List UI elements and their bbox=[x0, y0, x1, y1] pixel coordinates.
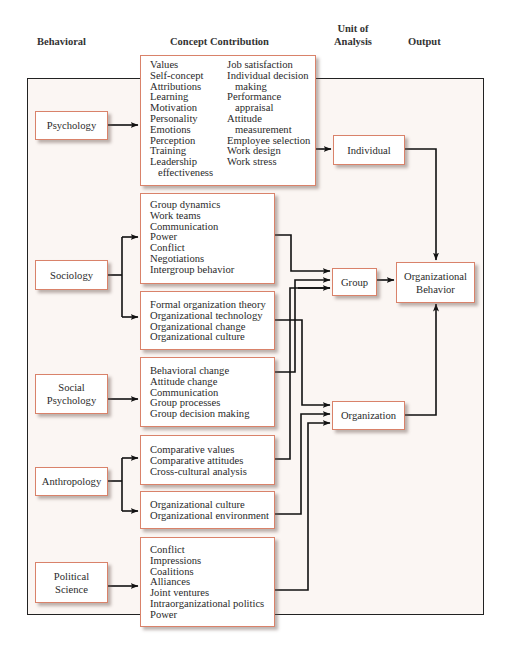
output-line1: Organizational bbox=[404, 270, 467, 283]
discipline-psychology-label: Psychology bbox=[47, 119, 96, 132]
concepts-sociology-organization: Formal organization theory Organizationa… bbox=[140, 291, 275, 350]
concepts-political-science: Conflict Impressions Coalitions Alliance… bbox=[140, 537, 275, 627]
concepts-anthropology-organization: Organizational culture Organizational en… bbox=[140, 491, 275, 529]
concepts-social-psychology: Behavioral change Attitude change Commun… bbox=[140, 357, 275, 427]
discipline-psychology: Psychology bbox=[35, 111, 108, 140]
discipline-sociology-label: Sociology bbox=[50, 269, 93, 282]
unit-individual-label: Individual bbox=[347, 144, 391, 157]
concepts-anthropology-group: Comparative values Comparative attitudes… bbox=[140, 435, 275, 485]
discipline-political-science: Political Science bbox=[35, 562, 108, 603]
concept-item: Work stress bbox=[227, 157, 310, 168]
concepts-sociology-group: Group dynamics Work teams Communication … bbox=[140, 193, 275, 284]
output-organizational-behavior: Organizational Behavior bbox=[396, 262, 475, 303]
concept-item-continuation: measurement bbox=[227, 125, 310, 136]
discipline-political-science-line2: Science bbox=[54, 583, 89, 596]
concepts-psychology-col2: Job satisfaction Individual decision mak… bbox=[213, 60, 310, 179]
concept-item: Work teams bbox=[150, 211, 274, 222]
unit-individual: Individual bbox=[333, 135, 405, 165]
concept-item: Organizational culture bbox=[150, 332, 274, 343]
concept-item: Impressions bbox=[150, 556, 274, 567]
unit-organization: Organization bbox=[332, 401, 405, 430]
discipline-social-psychology: Social Psychology bbox=[35, 374, 108, 414]
discipline-anthropology-label: Anthropology bbox=[42, 475, 101, 488]
concept-item: Group decision making bbox=[150, 409, 274, 420]
concept-item: Organizational environment bbox=[150, 511, 274, 522]
discipline-political-science-line1: Political bbox=[54, 570, 89, 583]
concept-item: Comparative attitudes bbox=[150, 456, 274, 467]
unit-organization-label: Organization bbox=[341, 409, 396, 422]
concept-item: Cross-cultural analysis bbox=[150, 467, 274, 478]
discipline-social-psychology-line1: Social bbox=[47, 381, 96, 394]
unit-group: Group bbox=[332, 268, 377, 296]
unit-group-label: Group bbox=[341, 276, 368, 289]
concept-item: Intergroup behavior bbox=[150, 265, 274, 276]
concepts-psychology: Values Self-concept Attributions Learnin… bbox=[140, 55, 316, 186]
concept-item: Individual decision bbox=[227, 71, 310, 82]
concept-item: Emotions bbox=[150, 125, 213, 136]
concept-item: Self-concept bbox=[150, 71, 213, 82]
discipline-anthropology: Anthropology bbox=[35, 467, 108, 496]
concept-item: Organizational technology bbox=[150, 311, 274, 322]
discipline-social-psychology-line2: Psychology bbox=[47, 394, 96, 407]
output-line2: Behavior bbox=[404, 283, 467, 296]
concept-item-continuation: effectiveness bbox=[150, 168, 213, 179]
concept-item: Attitude change bbox=[150, 377, 274, 388]
concepts-psychology-col1: Values Self-concept Attributions Learnin… bbox=[141, 60, 213, 179]
discipline-sociology: Sociology bbox=[35, 260, 108, 290]
concept-item: Power bbox=[150, 610, 274, 621]
